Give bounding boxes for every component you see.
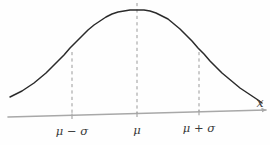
x-axis-label: x — [256, 95, 263, 110]
tick-label-mu-minus-sigma: μ − σ — [56, 124, 89, 138]
gaussian-curve-path — [10, 10, 262, 103]
normal-curve — [10, 10, 262, 103]
tick-label-mu: μ — [133, 123, 140, 137]
dashed-guides — [72, 3, 199, 116]
tick-label-mu-plus-sigma: μ + σ — [183, 121, 216, 135]
normal-distribution-figure: μ − σ μ μ + σ x — [0, 0, 270, 145]
tick-labels: μ − σ μ μ + σ — [56, 121, 216, 138]
